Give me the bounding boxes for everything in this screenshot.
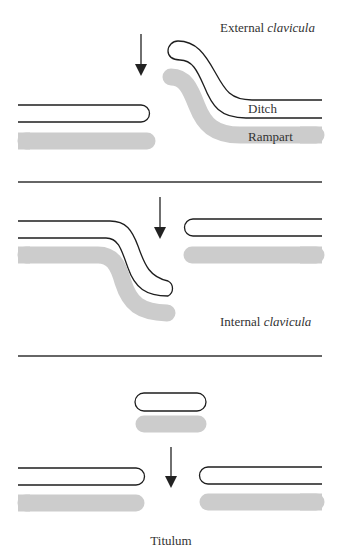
ditch-left xyxy=(18,105,150,122)
ditch-left xyxy=(18,468,145,485)
section-title-titulum: Titulum xyxy=(150,533,191,548)
section-internal-clavicula: Internal clavicula xyxy=(18,197,322,329)
ditch-right xyxy=(200,467,323,484)
rampart-right-clavicula xyxy=(171,77,316,135)
label-rampart: Rampart xyxy=(248,129,293,144)
entrance-arrow-icon xyxy=(135,34,147,76)
section-title-external-clavicula: External clavicula xyxy=(220,20,315,35)
label-ditch: Ditch xyxy=(248,101,277,116)
section-titulum: Titulum xyxy=(18,393,322,548)
section-external-clavicula: External clavicula Ditch Rampart xyxy=(18,20,322,144)
ditch-titulum xyxy=(135,393,206,411)
ditch-right xyxy=(185,219,323,236)
gateway-defenses-diagram: External clavicula Ditch Rampart xyxy=(0,0,344,551)
entrance-arrow-icon xyxy=(154,197,166,239)
section-title-internal-clavicula: Internal clavicula xyxy=(220,314,312,329)
entrance-arrow-icon xyxy=(165,447,177,488)
